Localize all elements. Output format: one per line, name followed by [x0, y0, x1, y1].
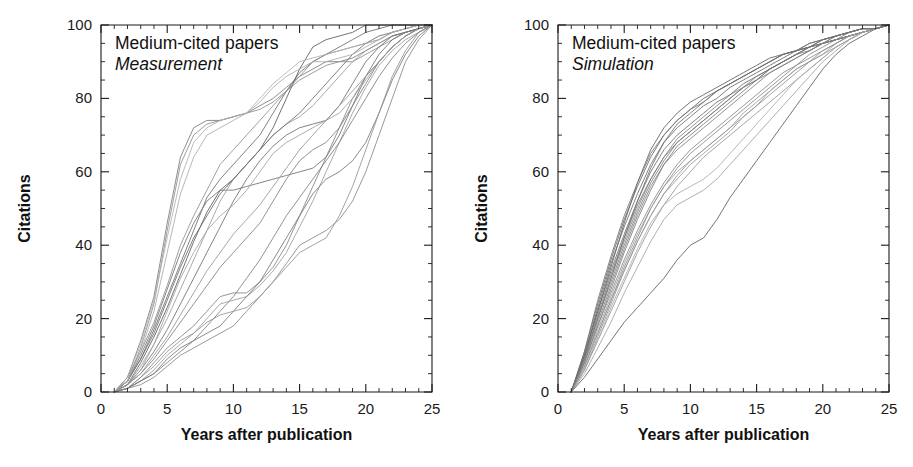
- series-line: [114, 25, 432, 392]
- series-group: [114, 25, 432, 392]
- y-tick-label: 20: [532, 310, 549, 327]
- series-line: [114, 25, 432, 392]
- series-line: [114, 25, 432, 392]
- y-axis-title: Citations: [16, 174, 33, 243]
- x-tick-label: 5: [620, 400, 628, 417]
- panel-title: Medium-cited papers: [115, 33, 279, 53]
- series-line: [114, 25, 432, 392]
- x-tick-label: 0: [97, 400, 105, 417]
- x-tick-label: 10: [682, 400, 699, 417]
- y-tick-label: 100: [67, 16, 92, 33]
- x-tick-label: 10: [225, 400, 242, 417]
- series-line: [114, 25, 432, 392]
- x-tick-label: 15: [291, 400, 308, 417]
- series-line: [114, 25, 432, 392]
- x-tick-label: 25: [424, 400, 441, 417]
- series-line: [114, 25, 432, 392]
- chart-panel-simulation: 0510152025020406080100Years after public…: [457, 0, 913, 467]
- y-tick-label: 60: [532, 163, 549, 180]
- series-line: [114, 25, 432, 392]
- series-line: [114, 25, 432, 392]
- panel-subtitle: Measurement: [115, 54, 223, 74]
- plot-area-left: 0510152025020406080100Years after public…: [0, 0, 456, 467]
- series-line: [114, 25, 432, 392]
- x-axis-title: Years after publication: [181, 426, 353, 443]
- y-tick-label: 40: [75, 236, 92, 253]
- series-line: [114, 25, 432, 392]
- y-tick-label: 40: [532, 236, 549, 253]
- x-tick-label: 5: [163, 400, 171, 417]
- series-line: [114, 25, 432, 392]
- figure-root: 0510152025020406080100Years after public…: [0, 0, 913, 467]
- plot-area-right: 0510152025020406080100Years after public…: [457, 0, 913, 467]
- series-line: [114, 25, 432, 392]
- x-tick-label: 15: [748, 400, 765, 417]
- y-tick-label: 0: [541, 383, 549, 400]
- x-tick-label: 20: [357, 400, 374, 417]
- series-line: [114, 25, 432, 392]
- x-tick-label: 25: [881, 400, 898, 417]
- series-line: [114, 25, 432, 392]
- y-tick-label: 20: [75, 310, 92, 327]
- y-axis-title: Citations: [473, 174, 490, 243]
- y-tick-label: 60: [75, 163, 92, 180]
- series-line: [114, 25, 432, 392]
- series-line: [114, 25, 432, 392]
- x-axis-title: Years after publication: [638, 426, 810, 443]
- y-tick-label: 100: [524, 16, 549, 33]
- panel-subtitle: Simulation: [572, 54, 654, 74]
- y-tick-label: 80: [75, 89, 92, 106]
- series-group: [571, 25, 889, 392]
- chart-panel-measurement: 0510152025020406080100Years after public…: [0, 0, 456, 467]
- series-line: [571, 25, 889, 392]
- y-tick-label: 80: [532, 89, 549, 106]
- panel-title: Medium-cited papers: [572, 33, 736, 53]
- x-tick-label: 0: [554, 400, 562, 417]
- y-tick-label: 0: [84, 383, 92, 400]
- x-tick-label: 20: [814, 400, 831, 417]
- series-line: [114, 25, 432, 392]
- series-line: [114, 25, 432, 392]
- series-line: [114, 25, 432, 392]
